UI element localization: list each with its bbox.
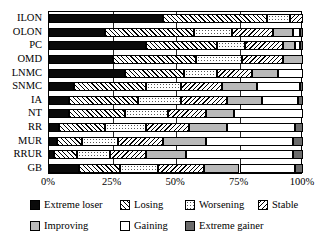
legend-item-worsening[interactable]: Worsening <box>185 199 244 210</box>
segment-gaining <box>278 69 303 78</box>
segment-worsening <box>217 41 245 50</box>
legend-label: Gaining <box>134 220 168 231</box>
y-axis-label-nt: NT <box>0 108 46 117</box>
segment-improving <box>252 69 277 78</box>
y-axis-label-gb: GB <box>0 163 46 172</box>
legend-swatch-extreme-loser-icon <box>30 200 40 210</box>
bar-mur <box>49 137 301 146</box>
segment-gaining <box>234 109 303 118</box>
segment-worsening <box>82 137 118 146</box>
bar-rrur <box>49 150 301 159</box>
segment-extreme-loser <box>49 137 57 146</box>
segment-gaining <box>262 96 298 105</box>
segment-extreme-gainer <box>298 96 303 105</box>
bar-lnmc <box>49 69 301 78</box>
y-axis-label-pc: PC <box>0 40 46 49</box>
y-axis-label-omd: OMD <box>0 54 46 63</box>
segment-losing <box>105 28 194 37</box>
segment-extreme-loser <box>49 69 125 78</box>
legend-swatch-gaining-icon <box>120 221 130 231</box>
legend-item-gaining[interactable]: Gaining <box>120 220 168 231</box>
segment-improving <box>283 55 303 64</box>
segment-losing <box>113 55 197 64</box>
segment-worsening <box>196 55 242 64</box>
legend-label: Extreme loser <box>44 199 103 210</box>
segment-worsening <box>77 150 110 159</box>
segment-stable <box>146 123 189 132</box>
segment-stable <box>158 164 204 173</box>
segment-worsening <box>125 109 168 118</box>
segment-stable <box>290 14 303 23</box>
segment-stable <box>242 55 283 64</box>
x-axis-tick-50: 50% <box>165 176 184 187</box>
x-axis: 0%25%50%75%100% <box>0 176 320 190</box>
segment-extreme-gainer <box>293 150 303 159</box>
segment-stable <box>217 69 253 78</box>
legend-label: Losing <box>134 199 163 210</box>
bar-nt <box>49 109 301 118</box>
segment-extreme-loser <box>49 14 163 23</box>
legend-label: Worsening <box>199 199 244 210</box>
legend-row: Extreme loserLosingWorseningStable <box>0 196 320 215</box>
segment-extreme-loser <box>49 28 105 37</box>
legend-item-stable[interactable]: Stable <box>258 199 298 210</box>
segment-extreme-loser <box>49 82 74 91</box>
bar-gb <box>49 164 301 173</box>
bar-olon <box>49 28 301 37</box>
chart-legend: Extreme loserLosingWorseningStableImprov… <box>0 196 320 240</box>
segment-losing <box>59 123 105 132</box>
segment-losing <box>146 41 217 50</box>
segment-improving <box>204 164 240 173</box>
legend-item-losing[interactable]: Losing <box>120 199 163 210</box>
segment-losing <box>79 164 120 173</box>
segment-improving <box>273 28 293 37</box>
segment-improving <box>227 96 263 105</box>
segment-improving <box>146 150 187 159</box>
bar-ia <box>49 96 301 105</box>
segment-gaining <box>227 123 296 132</box>
segment-improving <box>163 137 206 146</box>
segment-extreme-gainer <box>295 164 303 173</box>
legend-item-extreme-loser[interactable]: Extreme loser <box>30 199 103 210</box>
segment-worsening <box>184 69 217 78</box>
y-axis-label-snmc: SNMC <box>0 81 46 90</box>
legend-swatch-stable-icon <box>258 200 268 210</box>
segment-gaining <box>257 82 300 91</box>
legend-label: Improving <box>44 220 88 231</box>
segment-gaining <box>186 150 293 159</box>
segment-extreme-loser <box>49 109 69 118</box>
segment-losing <box>54 150 77 159</box>
segment-extreme-gainer <box>300 28 303 37</box>
x-axis-tick-25: 25% <box>102 176 121 187</box>
segment-worsening <box>120 164 158 173</box>
segment-stable <box>245 41 283 50</box>
segment-extreme-loser <box>49 41 146 50</box>
segment-extreme-loser <box>49 123 59 132</box>
legend-label: Extreme gainer <box>199 220 263 231</box>
segment-gaining <box>293 28 301 37</box>
segment-extreme-gainer <box>293 137 303 146</box>
segment-stable <box>181 82 222 91</box>
segment-worsening <box>138 96 181 105</box>
segment-stable <box>181 96 227 105</box>
legend-item-improving[interactable]: Improving <box>30 220 88 231</box>
legend-item-extreme-gainer[interactable]: Extreme gainer <box>185 220 263 231</box>
segment-extreme-gainer <box>300 82 303 91</box>
bar-ilon <box>49 14 301 23</box>
chart-container: ILONOLONPCOMDLNMCSNMCIANTRRMURRRURGB 0%2… <box>0 0 320 249</box>
segment-extreme-gainer <box>300 41 303 50</box>
segment-losing <box>57 137 82 146</box>
legend-swatch-losing-icon <box>120 200 130 210</box>
segment-extreme-loser <box>49 55 113 64</box>
segment-improving <box>222 82 258 91</box>
segment-stable <box>232 28 273 37</box>
segment-losing <box>125 69 183 78</box>
segment-worsening <box>146 82 182 91</box>
segment-stable <box>110 150 146 159</box>
legend-swatch-improving-icon <box>30 221 40 231</box>
y-axis-label-rrur: RRUR <box>0 149 46 158</box>
legend-label: Stable <box>272 199 298 210</box>
bar-pc <box>49 41 301 50</box>
y-axis-label-lnmc: LNMC <box>0 68 46 77</box>
segment-gaining <box>206 137 292 146</box>
